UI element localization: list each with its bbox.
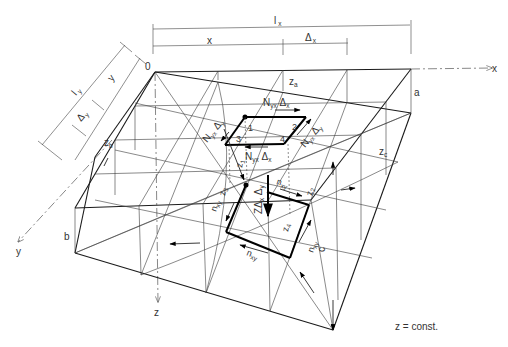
nxy-left-label: nxy — [208, 198, 223, 214]
force-nxy-left: nxy — [208, 198, 234, 221]
origin-label: 0 — [145, 61, 151, 72]
dy-label: Δy — [74, 107, 91, 124]
x-axis-label: x — [492, 63, 497, 74]
dimension-ly: ly y Δy — [38, 42, 146, 160]
za-label: za — [289, 76, 298, 88]
caption: z = const. — [395, 321, 438, 332]
dx-label: Δx — [305, 32, 317, 44]
x-label: x — [207, 35, 212, 46]
nyx-dy-left-label: Nyx Δy — [200, 116, 227, 145]
membrane-shell-diagram: lx x Δx ly y Δy x y z 0 — [0, 0, 508, 347]
force-nxy-top: nxy — [275, 176, 302, 196]
zc-label: zc — [379, 146, 388, 158]
y-label: y — [105, 72, 117, 83]
zb-label: zb — [104, 137, 113, 149]
c-label: c — [316, 247, 327, 252]
corner-4-label: 4 — [280, 134, 285, 144]
lx-label: lx — [274, 15, 282, 27]
a-label: a — [414, 87, 420, 98]
force-nyx-dx-bottom: Nyx Δx — [245, 147, 272, 164]
z4-label: z4 — [280, 222, 292, 232]
corner-3-label: 3 — [236, 134, 241, 144]
z3-label: z3 — [217, 186, 229, 196]
tick-mark — [104, 158, 108, 166]
corner-1-label: 1 — [248, 123, 253, 133]
nyx-dx-top-label: Nyx Δx — [263, 97, 290, 110]
z-load-label: ZΔx Δy — [253, 184, 266, 214]
corner-2-label: 2 — [292, 122, 297, 132]
z-axis-label: z — [154, 307, 159, 318]
b-label: b — [64, 231, 70, 242]
warped-element — [224, 129, 309, 258]
y-axis-label: y — [16, 246, 21, 257]
dimension-lx: lx — [153, 15, 411, 54]
top-plane-grid — [75, 69, 411, 208]
dimension-x-dx: x Δx — [153, 32, 348, 55]
warped-surface — [75, 69, 411, 330]
nyx-dx-bottom-label: Nyx Δx — [245, 151, 272, 164]
axis-z: z — [154, 72, 159, 318]
warped-node-1 — [244, 183, 249, 188]
axis-x: x — [411, 63, 497, 74]
